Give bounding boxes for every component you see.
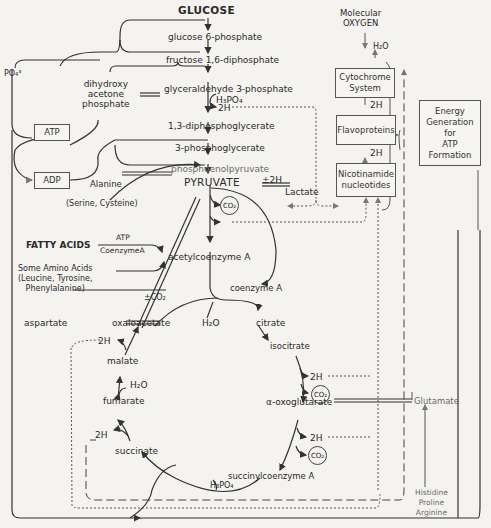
malate-label: malate: [107, 356, 138, 366]
phosphoglycerate-label: 3-phosphoglycerate: [175, 143, 265, 153]
acetyl-coenzyme-a-label: acetylcoenzyme A: [168, 252, 250, 262]
co2-circle-1: CO₂: [220, 196, 239, 215]
serine-cysteine-label: (Serine, Cysteine): [66, 199, 138, 209]
coenzyme-a-small-label: CoenzymeA: [100, 246, 145, 256]
flavoproteins-box: Flavoproteins: [336, 115, 396, 145]
dihydroxyacetone-phosphate-label: dihydroxy acetone phosphate: [82, 79, 130, 109]
fructose-diphosphate-label: fructose 1,6-diphosphate: [166, 55, 279, 65]
lactate-label: Lactate: [285, 187, 319, 197]
oxaloacetate-label: oxaloacetate: [112, 318, 170, 328]
two-h-cytochrome-label: 2H: [370, 100, 383, 110]
two-h-flavoproteins-label: 2H: [370, 148, 383, 158]
cytochrome-system-box: CytochromeSystem: [335, 68, 395, 98]
alanine-label: Alanine: [90, 179, 122, 189]
two-h-succinate-label: 2H: [95, 430, 108, 440]
isocitrate-label: isocitrate: [270, 341, 310, 351]
two-h-isocitrate-label: 2H: [310, 372, 323, 382]
succinyl-coenzyme-a-label: succinylcoenzyme A: [228, 471, 314, 481]
glucose-label: GLUCOSE: [178, 5, 235, 15]
molecular-oxygen-label: Molecular OXYGEN: [340, 8, 381, 28]
atp-box: ATP: [34, 124, 70, 141]
co2-circle-3: CO₂: [308, 446, 327, 465]
h2o-label-2: H₂O: [130, 380, 147, 390]
h2o-label-1: H₂O: [202, 318, 219, 328]
aspartate-label: aspartate: [24, 318, 67, 328]
coenzyme-a-label: coenzyme A: [230, 283, 282, 293]
energy-generation-box: Energy Generation for ATP Formation: [419, 100, 481, 166]
two-h-label: 2H: [218, 103, 231, 113]
h2o-resp-label: H₂O: [373, 42, 389, 52]
succinate-label: succinate: [115, 446, 158, 456]
citrate-label: citrate: [256, 318, 285, 328]
plus-minus-co2-label: ±CO₂: [144, 293, 166, 303]
pyruvate-label: PYRUVATE: [184, 177, 240, 187]
glyceraldehyde-3-phosphate-label: glyceraldehyde 3-phosphate: [164, 84, 293, 94]
plus-minus-2h-label: ±2H: [262, 175, 282, 185]
glutamate-sources-label: Histidine Proline Arginine: [415, 488, 448, 518]
glucose-6-phosphate-label: glucose 6-phosphate: [168, 32, 262, 42]
alpha-oxoglutarate-label: α-oxoglutarate: [266, 397, 332, 407]
diphosphoglycerate-label: 1,3-diphosphoglycerate: [168, 121, 275, 131]
two-h-alpha-kg-label: 2H: [310, 433, 323, 443]
fumarate-label: fumarate: [103, 396, 144, 406]
atp-small-label: ATP: [116, 233, 130, 243]
two-h-malate-label: 2H: [98, 336, 111, 346]
h3po4-tca-label: H₃PO₄: [210, 481, 234, 491]
adp-box: ADP: [34, 172, 70, 189]
nicotinamide-nucleotides-box: Nicotinamidenucleotides: [336, 163, 396, 197]
fatty-acids-label: FATTY ACIDS: [26, 240, 90, 250]
phosphoenolpyruvate-label: phosphoenolpyruvate: [171, 164, 269, 174]
some-amino-acids-label: Some Amino Acids (Leucine, Tyrosine, Phe…: [18, 264, 92, 294]
metabolic-pathway-diagram: GLUCOSE glucose 6-phosphate fructose 1,6…: [0, 0, 491, 528]
phosphate-ion-label: PO₄³: [4, 69, 22, 79]
glutamate-label: Glutamate: [414, 396, 459, 406]
